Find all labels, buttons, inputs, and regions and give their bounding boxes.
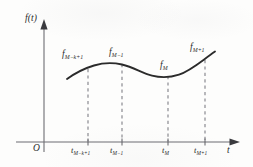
curve-label-subscript: M+1 [193, 47, 205, 53]
curve-label-subscript: M−k+1 [65, 54, 83, 60]
y-axis-arrowhead [40, 19, 47, 30]
y-axis-label-arg: (t) [28, 13, 37, 23]
y-axis [40, 19, 47, 152]
tick-label-1: tM−k+1 [71, 146, 90, 155]
tick-label-subscript: M [165, 150, 169, 156]
figure-container: f(t) t O fM−k+1 fM−1 fM fM+1 tM−k+1 tM−1… [0, 0, 253, 167]
tick-label-4: tM+1 [194, 146, 207, 155]
tick-label-3: tM [162, 146, 169, 155]
tick-label-2: tM−1 [110, 146, 123, 155]
dashed-droplines [88, 60, 205, 141]
tick-label-subscript: M−k+1 [74, 150, 91, 156]
origin-label: O [33, 144, 40, 154]
curve-label-subscript: M−1 [112, 52, 124, 58]
curve-label-subscript: M [163, 65, 168, 71]
curve-point-label-1: fM−k+1 [62, 50, 83, 60]
curve-point-label-3: fM [160, 61, 168, 71]
x-axis-label: t [227, 146, 230, 156]
x-axis-arrowhead [230, 139, 241, 146]
tick-label-subscript: M+1 [197, 150, 208, 156]
curve-point-label-4: fM+1 [190, 43, 205, 53]
curve-point-label-2: fM−1 [109, 48, 124, 58]
plot-canvas [0, 0, 253, 167]
x-axis [16, 139, 240, 146]
function-curve [67, 52, 215, 80]
y-axis-label: f(t) [25, 14, 37, 24]
tick-label-subscript: M−1 [113, 150, 124, 156]
